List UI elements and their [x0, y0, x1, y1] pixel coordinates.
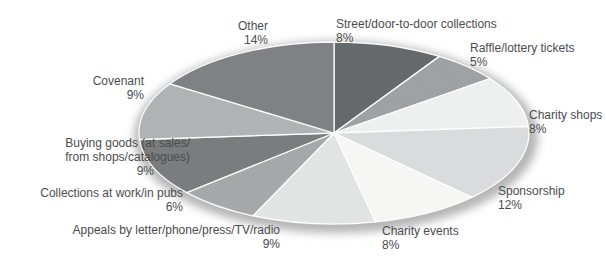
slice-percent-text: 8%: [382, 238, 459, 252]
slice-percent-text: 9%: [73, 237, 280, 251]
slice-label-text: from shops/catalogues): [65, 150, 190, 164]
slice-percent-text: 14%: [238, 33, 268, 47]
pie-chart-figure: Street/door-to-door collections8%Raffle/…: [0, 0, 606, 260]
pie-chart: [0, 0, 606, 260]
slice-label-text: Collections at work/in pubs: [40, 186, 183, 200]
slice-label-charity_events: Charity events8%: [382, 224, 459, 252]
slice-label-covenant: Covenant9%: [93, 74, 144, 102]
slice-label-text: Appeals by letter/phone/press/TV/radio: [73, 223, 280, 237]
slice-label-text: Other: [238, 19, 268, 33]
slice-percent-text: 9%: [65, 164, 190, 178]
slice-percent-text: 12%: [498, 198, 565, 212]
slice-percent-text: 9%: [93, 88, 144, 102]
slice-label-text: Charity shops: [529, 108, 602, 122]
slice-label-collections_work_pubs: Collections at work/in pubs6%: [40, 186, 183, 214]
slice-label-text: Sponsorship: [498, 184, 565, 198]
slice-label-buying_goods: Buying goods (at sales/from shops/catalo…: [65, 136, 190, 178]
slice-label-raffle: Raffle/lottery tickets5%: [470, 41, 574, 69]
slice-label-text: Buying goods (at sales/: [65, 136, 190, 150]
slice-label-text: Raffle/lottery tickets: [470, 41, 574, 55]
slice-label-charity_shops: Charity shops8%: [529, 108, 602, 136]
slice-label-sponsorship: Sponsorship12%: [498, 184, 565, 212]
slice-label-other: Other14%: [238, 19, 268, 47]
slice-label-text: Street/door-to-door collections: [336, 17, 497, 31]
slice-label-text: Charity events: [382, 224, 459, 238]
slice-percent-text: 8%: [529, 122, 602, 136]
slice-percent-text: 6%: [40, 200, 183, 214]
slice-label-appeals: Appeals by letter/phone/press/TV/radio9%: [73, 223, 280, 251]
slice-percent-text: 5%: [470, 55, 574, 69]
slice-label-text: Covenant: [93, 74, 144, 88]
